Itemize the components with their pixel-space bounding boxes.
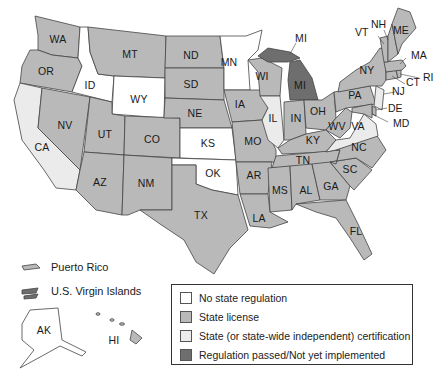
legend-item-no-regulation: No state regulation: [180, 291, 287, 305]
label-AL: AL: [299, 184, 312, 196]
label-TN: TN: [296, 154, 310, 166]
label-CA: CA: [35, 141, 50, 153]
label-SD: SD: [184, 78, 199, 90]
label-TX: TX: [194, 209, 208, 221]
legend-label: No state regulation: [199, 292, 287, 304]
label-CO: CO: [144, 133, 160, 145]
legend-item-state-certification: State (or state-wide independent) certif…: [180, 329, 410, 343]
label-WY: WY: [130, 93, 147, 105]
label-WI: WI: [255, 70, 268, 82]
label-AK: AK: [37, 324, 51, 336]
swatch-regulation-passed: [180, 349, 192, 361]
state-HI-islet-3: [120, 323, 125, 326]
label-IL: IL: [268, 112, 277, 124]
legend-item-state-license: State license: [180, 310, 259, 324]
label-MS: MS: [272, 184, 288, 196]
label-NH: NH: [371, 18, 386, 30]
legend-item-regulation-passed: Regulation passed/Not yet implemented: [180, 348, 385, 362]
label-KS: KS: [201, 137, 215, 149]
label-RI: RI: [423, 71, 434, 83]
label-NM: NM: [138, 177, 155, 189]
label-MA: MA: [411, 49, 427, 61]
label-virgin-islands: U.S. Virgin Islands: [51, 285, 141, 297]
label-LA: LA: [252, 212, 265, 224]
swatch-state-certification: [180, 330, 192, 342]
territory-virgin-islands[interactable]: [22, 288, 38, 294]
label-AZ: AZ: [93, 176, 107, 188]
label-WA: WA: [50, 33, 67, 45]
label-NY: NY: [360, 64, 375, 76]
label-puerto-rico: Puerto Rico: [51, 261, 108, 273]
swatch-state-license: [180, 311, 192, 323]
legend: No state regulation State license State …: [171, 284, 413, 365]
label-ID: ID: [85, 79, 96, 91]
label-OH: OH: [310, 105, 326, 117]
label-NJ: NJ: [392, 85, 405, 97]
label-GA: GA: [323, 180, 339, 192]
label-SC: SC: [343, 163, 358, 175]
territory-virgin-islands-2[interactable]: [24, 294, 38, 299]
label-AR: AR: [247, 169, 262, 181]
label-NC: NC: [351, 141, 367, 153]
label-MO: MO: [244, 135, 261, 147]
label-KY: KY: [306, 134, 320, 146]
state-NJ[interactable]: [374, 86, 384, 110]
label-IA: IA: [235, 98, 245, 110]
territory-puerto-rico[interactable]: [22, 264, 40, 270]
label-UT: UT: [98, 128, 112, 140]
label-MI: MI: [294, 79, 306, 91]
label-HI: HI: [109, 334, 120, 346]
label-MN: MN: [221, 56, 238, 68]
label-PA: PA: [348, 89, 362, 101]
label-MI-upper: MI: [295, 32, 307, 44]
label-MT: MT: [122, 48, 138, 60]
label-WV: WV: [328, 120, 345, 132]
swatch-no-regulation: [180, 292, 192, 304]
label-NE: NE: [188, 107, 203, 119]
label-FL: FL: [350, 225, 363, 237]
label-CT: CT: [406, 76, 420, 88]
state-HI[interactable]: [130, 330, 142, 344]
label-DE: DE: [388, 102, 403, 114]
label-IN: IN: [291, 112, 302, 124]
state-AK[interactable]: [20, 308, 86, 368]
label-ND: ND: [183, 49, 199, 61]
state-MI-upper[interactable]: [258, 48, 300, 62]
label-OK: OK: [205, 167, 221, 179]
legend-label: Regulation passed/Not yet implemented: [199, 349, 385, 361]
label-VA: VA: [351, 120, 365, 132]
label-VT: VT: [355, 26, 368, 38]
state-HI-islet-2: [110, 319, 114, 322]
legend-label: State (or state-wide independent) certif…: [199, 330, 410, 342]
legend-label: State license: [199, 311, 259, 323]
label-MD: MD: [393, 117, 409, 129]
label-OR: OR: [38, 65, 54, 77]
state-HI-islet-1: [96, 313, 100, 316]
label-NV: NV: [58, 119, 73, 131]
label-ME: ME: [393, 24, 409, 36]
